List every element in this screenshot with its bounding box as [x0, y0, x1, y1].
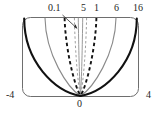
- curve-5: [74, 18, 86, 96]
- curve-label-1: 1: [94, 3, 99, 13]
- curve-1: [65, 18, 97, 96]
- curve-label-5: 5: [81, 3, 86, 13]
- x-axis-label-left: -4: [6, 90, 14, 100]
- x-axis-label-origin: 0: [77, 99, 82, 109]
- x-axis-label-right: 4: [146, 90, 151, 100]
- plot-frame: [23, 18, 139, 97]
- curve-label-6: 6: [114, 3, 119, 13]
- figure-plot: 0.1 5 1 6 16 -4 0 4: [0, 0, 159, 115]
- curve-16: [24, 19, 137, 96]
- curve-label-0point1: 0.1: [48, 3, 61, 13]
- curve-label-16: 16: [133, 3, 143, 13]
